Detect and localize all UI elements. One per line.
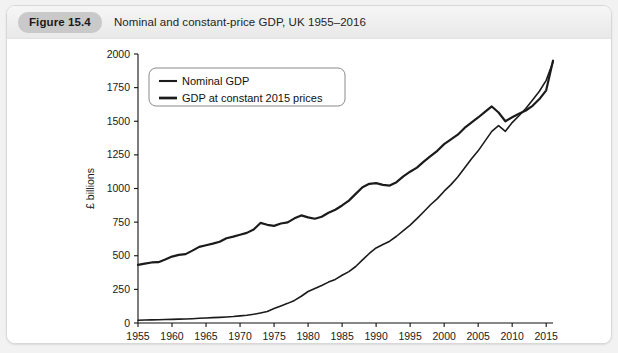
y-tick-label: 1500 <box>107 115 131 127</box>
y-axis-title: £ billions <box>84 168 96 209</box>
y-tick-label: 1000 <box>107 182 131 194</box>
x-tick-label: 1975 <box>262 330 286 342</box>
x-tick-label: 1995 <box>398 330 422 342</box>
x-tick-label: 1990 <box>364 330 388 342</box>
x-tick-label: 1965 <box>194 330 218 342</box>
x-tick-label: 1955 <box>126 330 150 342</box>
x-tick-label: 2000 <box>432 330 456 342</box>
gdp-line-chart: 0250500750100012501500175020001955196019… <box>7 39 611 343</box>
x-tick-label: 1960 <box>160 330 184 342</box>
legend-label-1: Nominal GDP <box>182 75 249 87</box>
chart-legend: Nominal GDPGDP at constant 2015 prices <box>149 68 345 106</box>
x-tick-label: 1980 <box>296 330 320 342</box>
x-tick-label: 2010 <box>501 330 525 342</box>
legend-label-2: GDP at constant 2015 prices <box>182 92 323 104</box>
y-tick-label: 750 <box>112 216 130 228</box>
figure-number-badge: Figure 15.4 <box>18 12 102 33</box>
x-tick-label: 1985 <box>330 330 354 342</box>
y-tick-label: 1250 <box>107 148 131 160</box>
y-tick-label: 1750 <box>107 81 131 93</box>
y-tick-label: 0 <box>124 317 130 329</box>
y-tick-label: 2000 <box>107 48 131 60</box>
figure-card: Figure 15.4 Nominal and constant-price G… <box>6 5 612 344</box>
x-tick-label: 2005 <box>466 330 490 342</box>
y-tick-label: 500 <box>112 249 130 261</box>
x-tick-label: 2015 <box>535 330 559 342</box>
chart-plot-region: 0250500750100012501500175020001955196019… <box>7 39 611 343</box>
figure-title: Nominal and constant-price GDP, UK 1955–… <box>114 14 366 31</box>
figure-header: Figure 15.4 Nominal and constant-price G… <box>7 6 611 39</box>
figure-root: Figure 15.4 Nominal and constant-price G… <box>0 0 618 353</box>
y-tick-label: 250 <box>112 283 130 295</box>
x-tick-label: 1970 <box>228 330 252 342</box>
